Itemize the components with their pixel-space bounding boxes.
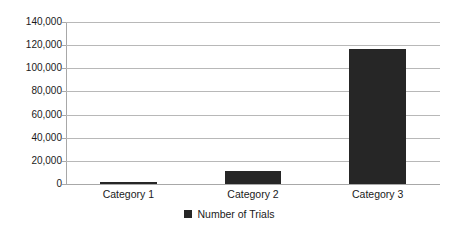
bar [225, 171, 282, 184]
bar-group [349, 22, 406, 184]
y-axis-tick-label: 140,000 [4, 17, 62, 27]
y-axis-tick-mark [62, 161, 66, 162]
x-axis-category-label: Category 3 [315, 188, 440, 201]
y-axis-tick-mark [62, 91, 66, 92]
legend-entry-label: Number of Trials [197, 208, 274, 220]
bar-chart: 020,00040,00060,00080,000100,000120,0001… [0, 0, 459, 233]
bar-group [225, 22, 282, 184]
y-axis-tick-mark [62, 68, 66, 69]
y-axis-tick-label: 0 [4, 179, 62, 189]
y-axis-tick-mark [62, 45, 66, 46]
y-axis-tick-label: 60,000 [4, 110, 62, 120]
y-axis-tick-labels: 020,00040,00060,00080,000100,000120,0001… [0, 0, 62, 233]
legend-swatch-icon [184, 210, 192, 218]
y-axis-tick-mark [62, 138, 66, 139]
y-axis-tick-mark [62, 115, 66, 116]
y-axis-tick-label: 40,000 [4, 133, 62, 143]
x-axis-category-label: Category 2 [191, 188, 316, 201]
bar [349, 49, 406, 184]
y-axis-tick-label: 80,000 [4, 86, 62, 96]
chart-legend: Number of Trials [0, 208, 459, 220]
bar [100, 182, 157, 184]
bar-group [100, 22, 157, 184]
y-axis-tick-label: 20,000 [4, 156, 62, 166]
x-axis-category-label: Category 1 [66, 188, 191, 201]
plot-area [66, 22, 440, 184]
y-axis-tick-mark [62, 184, 66, 185]
y-axis-tick-mark [62, 22, 66, 23]
x-axis-category-labels: Category 1Category 2Category 3 [66, 188, 440, 204]
gridline [66, 184, 440, 185]
y-axis-tick-label: 100,000 [4, 63, 62, 73]
y-axis-tick-label: 120,000 [4, 40, 62, 50]
